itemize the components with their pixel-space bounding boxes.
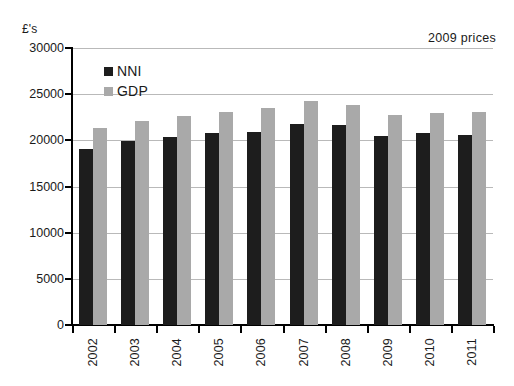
bar-gdp-2009 <box>388 115 402 326</box>
x-tick-label-2002: 2002 <box>86 338 100 367</box>
x-tick-label-2011: 2011 <box>465 338 479 366</box>
bar-nni-2008 <box>332 125 346 325</box>
chart-annotation-2009-prices: 2009 prices <box>428 31 496 45</box>
bar-nni-2004 <box>163 137 177 325</box>
chart-legend: NNI GDP <box>104 61 148 101</box>
bar-group-2004 <box>156 48 198 325</box>
bar-gdp-2010 <box>430 113 444 325</box>
bar-gdp-2002 <box>93 128 107 325</box>
bar-gdp-2005 <box>219 112 233 325</box>
bar-nni-2002 <box>79 149 93 325</box>
x-tick-label-2005: 2005 <box>212 338 226 367</box>
bar-gdp-2008 <box>346 105 360 325</box>
x-tick-2011 <box>451 326 453 333</box>
x-tick-label-2004: 2004 <box>170 338 184 367</box>
y-tick-label-25000: 25000 <box>12 87 64 101</box>
legend-item-gdp: GDP <box>104 81 148 101</box>
y-tick-30000 <box>65 47 71 49</box>
x-tick-2008 <box>325 326 327 333</box>
bar-gdp-2003 <box>135 121 149 325</box>
bar-nni-2011 <box>458 135 472 325</box>
legend-label-gdp: GDP <box>117 83 148 99</box>
y-tick-15000 <box>65 186 71 188</box>
x-tick-end <box>493 326 495 333</box>
bar-nni-2003 <box>121 141 135 325</box>
y-tick-label-15000: 15000 <box>12 180 64 194</box>
legend-label-nni: NNI <box>117 63 142 79</box>
x-tick-label-2010: 2010 <box>423 338 437 367</box>
bar-group-2008 <box>325 48 367 325</box>
x-tick-2003 <box>114 326 116 333</box>
x-tick-2005 <box>198 326 200 333</box>
bar-gdp-2007 <box>304 101 318 325</box>
bar-group-2009 <box>367 48 409 325</box>
bar-group-2010 <box>409 48 451 325</box>
bar-gdp-2011 <box>472 112 486 325</box>
x-tick-2006 <box>240 326 242 333</box>
x-tick-2004 <box>156 326 158 333</box>
bar-gdp-2006 <box>261 108 275 325</box>
bar-gdp-2004 <box>177 116 191 325</box>
y-tick-0 <box>65 324 71 326</box>
y-tick-25000 <box>65 93 71 95</box>
x-tick-label-2009: 2009 <box>381 338 395 367</box>
y-tick-10000 <box>65 232 71 234</box>
x-tick-label-2007: 2007 <box>297 338 311 367</box>
bar-group-2006 <box>240 48 282 325</box>
y-tick-20000 <box>65 139 71 141</box>
bar-group-2007 <box>283 48 325 325</box>
x-tick-2010 <box>409 326 411 333</box>
bar-nni-2006 <box>247 132 261 325</box>
x-tick-2009 <box>367 326 369 333</box>
x-tick-2002 <box>72 326 74 333</box>
legend-swatch-gdp-icon <box>104 87 113 96</box>
bar-group-2011 <box>451 48 493 325</box>
y-tick-label-5000: 5000 <box>12 272 64 286</box>
legend-swatch-nni-icon <box>104 67 113 76</box>
bar-nni-2009 <box>374 136 388 325</box>
y-axis-tick-labels: 050001000015000200002500030000 <box>8 0 64 386</box>
bar-nni-2010 <box>416 133 430 325</box>
y-tick-label-10000: 10000 <box>12 226 64 240</box>
bar-nni-2005 <box>205 133 219 325</box>
y-tick-label-20000: 20000 <box>12 133 64 147</box>
x-tick-label-2008: 2008 <box>339 338 353 367</box>
x-tick-2007 <box>283 326 285 333</box>
bar-nni-2007 <box>290 124 304 325</box>
x-tick-label-2003: 2003 <box>128 338 142 367</box>
legend-item-nni: NNI <box>104 61 148 81</box>
y-tick-5000 <box>65 278 71 280</box>
y-tick-label-0: 0 <box>12 318 64 332</box>
y-tick-label-30000: 30000 <box>12 41 64 55</box>
bar-group-2005 <box>198 48 240 325</box>
x-tick-label-2006: 2006 <box>254 338 268 367</box>
bar-chart-figure: £'s 2009 prices 050001000015000200002500… <box>0 0 514 386</box>
